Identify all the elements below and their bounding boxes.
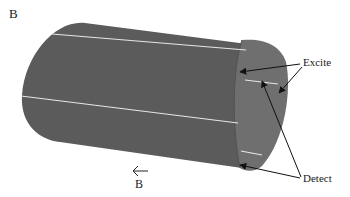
panel-label: B bbox=[9, 7, 18, 20]
cylinder-diagram bbox=[0, 0, 350, 197]
detect-label: Detect bbox=[303, 173, 332, 184]
excite-label: Excite bbox=[303, 57, 331, 68]
field-direction-arrow-icon bbox=[131, 164, 149, 178]
magnetic-field-label: B bbox=[135, 178, 143, 190]
detect-arrow-2 bbox=[240, 165, 300, 178]
cylinder-body bbox=[22, 23, 255, 168]
